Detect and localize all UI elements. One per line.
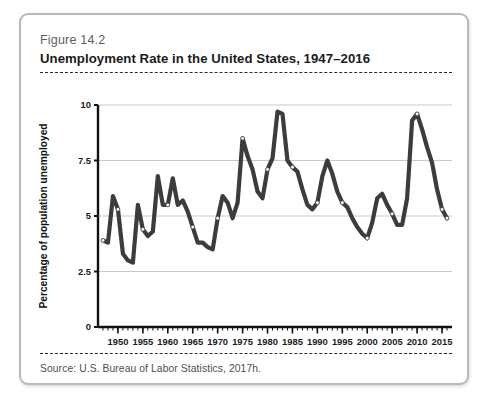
data-point-marker (266, 167, 270, 171)
data-point-marker (116, 207, 120, 211)
dashed-divider-bottom (40, 353, 452, 354)
unemployment-line-chart: 02.557.510 19501955196019651970197519801… (34, 79, 458, 347)
x-tick-label: 1980 (257, 336, 278, 347)
data-point-marker (340, 201, 344, 205)
x-tick-label: 1955 (132, 336, 153, 347)
y-tick-label: 0 (86, 321, 91, 332)
y-tick-label: 2.5 (78, 266, 91, 277)
y-tick-label: 7.5 (78, 155, 91, 166)
x-tick-label: 1950 (108, 336, 129, 347)
data-point-marker (365, 236, 369, 240)
x-tick-label: 1960 (157, 336, 178, 347)
data-point-marker (440, 207, 444, 211)
dashed-divider-top (40, 72, 452, 73)
data-point-marker (101, 239, 105, 243)
data-point-marker (415, 112, 419, 116)
x-tick-label: 1990 (307, 336, 328, 347)
data-point-marker (445, 216, 449, 220)
data-point-marker (216, 216, 220, 220)
x-tick-label: 2015 (432, 336, 453, 347)
x-tick-label: 1985 (282, 336, 303, 347)
x-tick-labels-group: 1950195519601965197019751980198519901995… (108, 336, 453, 347)
x-tick-label: 2000 (357, 336, 378, 347)
x-tick-label: 2010 (407, 336, 428, 347)
figure-card: Figure 14.2 Unemployment Rate in the Uni… (19, 13, 469, 385)
y-tick-label: 10 (81, 99, 91, 110)
x-tick-label: 2005 (382, 336, 403, 347)
data-point-marker (141, 227, 145, 231)
x-tick-label: 1965 (182, 336, 203, 347)
data-point-marker (166, 203, 170, 207)
x-tick-label: 1970 (207, 336, 228, 347)
chart-plot-area: 02.557.510 19501955196019651970197519801… (34, 79, 458, 347)
x-tick-label: 1995 (332, 336, 353, 347)
unemployment-series-line (103, 112, 447, 263)
y-tick-labels-group: 02.557.510 (78, 99, 91, 332)
data-point-marker (191, 225, 195, 229)
data-point-marker (291, 165, 295, 169)
data-point-marker (241, 136, 245, 140)
y-tick-label: 5 (86, 210, 91, 221)
figure-number: Figure 14.2 (40, 33, 105, 47)
source-note: Source: U.S. Bureau of Labor Statistics,… (40, 363, 261, 374)
x-tick-label: 1975 (232, 336, 253, 347)
data-point-marker (390, 212, 394, 216)
figure-title: Unemployment Rate in the United States, … (40, 51, 370, 66)
y-axis-title: Percentage of population unemployed (38, 123, 49, 308)
data-point-marker (315, 201, 319, 205)
